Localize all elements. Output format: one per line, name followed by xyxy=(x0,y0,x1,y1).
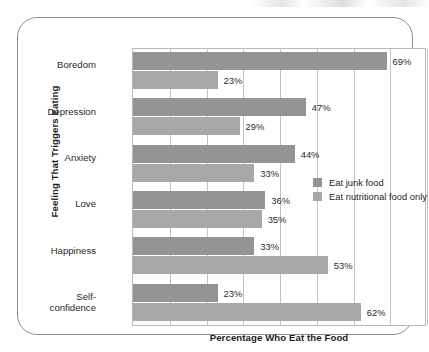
bar[interactable] xyxy=(133,303,361,321)
bar-value-label: 36% xyxy=(271,195,290,206)
bar-row: 23% xyxy=(133,284,425,302)
bar[interactable] xyxy=(133,191,265,209)
bar-value-label: 33% xyxy=(260,241,279,252)
bar-row: 53% xyxy=(133,256,425,274)
bar-value-label: 62% xyxy=(367,306,386,317)
legend-swatch xyxy=(313,192,322,201)
legend-label: Eat junk food xyxy=(329,177,384,188)
bar-value-label: 23% xyxy=(224,75,243,86)
bar[interactable] xyxy=(133,164,254,182)
bar-row: 23% xyxy=(133,71,425,89)
x-axis-title: Percentage Who Eat the Food xyxy=(132,332,426,343)
bar-row: 44% xyxy=(133,145,425,163)
bar-row: 35% xyxy=(133,210,425,228)
y-axis-category-label: Love xyxy=(1,198,96,209)
bar-group: 23%62% xyxy=(133,281,425,327)
legend-item[interactable]: Eat nutritional food only xyxy=(313,191,427,202)
bar-group: 33%53% xyxy=(133,234,425,280)
bar[interactable] xyxy=(133,71,218,89)
bar[interactable] xyxy=(133,284,218,302)
plot-area: 69%23%47%29%44%33%36%35%33%53%23%62% Eat… xyxy=(132,48,426,326)
legend-label: Eat nutritional food only xyxy=(329,191,427,202)
bar-value-label: 47% xyxy=(312,102,331,113)
bar[interactable] xyxy=(133,237,254,255)
bar-row: 33% xyxy=(133,237,425,255)
y-axis-category-label: Self-confidence xyxy=(1,291,96,313)
bar-value-label: 29% xyxy=(246,121,265,132)
y-axis-category-label: Boredom xyxy=(1,59,96,70)
legend-swatch xyxy=(313,178,322,187)
bar-row: 69% xyxy=(133,52,425,70)
bar-group: 47%29% xyxy=(133,95,425,141)
bar-value-label: 23% xyxy=(224,287,243,298)
scan-artifact xyxy=(250,0,429,7)
bar[interactable] xyxy=(133,98,306,116)
bar-value-label: 44% xyxy=(301,148,320,159)
bar[interactable] xyxy=(133,117,240,135)
bar-value-label: 33% xyxy=(260,167,279,178)
bar-value-label: 53% xyxy=(334,260,353,271)
bar-group: 69%23% xyxy=(133,49,425,95)
bar-value-label: 35% xyxy=(268,214,287,225)
bar[interactable] xyxy=(133,145,295,163)
chart-legend: Eat junk foodEat nutritional food only xyxy=(313,177,427,205)
gridline xyxy=(427,49,428,325)
bar[interactable] xyxy=(133,256,328,274)
bar[interactable] xyxy=(133,210,262,228)
bar[interactable] xyxy=(133,52,387,70)
chart-figure: Feeling That Triggers Eating BoredomDepr… xyxy=(0,0,429,352)
y-axis-category-label: Anxiety xyxy=(1,152,96,163)
bar-row: 47% xyxy=(133,98,425,116)
chart-frame: Feeling That Triggers Eating BoredomDepr… xyxy=(17,17,413,335)
y-axis-category-label: Happiness xyxy=(1,245,96,256)
y-axis-category-label: Depression xyxy=(1,106,96,117)
bar-row: 62% xyxy=(133,303,425,321)
legend-item[interactable]: Eat junk food xyxy=(313,177,427,188)
bar-value-label: 69% xyxy=(393,56,412,67)
bar-row: 29% xyxy=(133,117,425,135)
